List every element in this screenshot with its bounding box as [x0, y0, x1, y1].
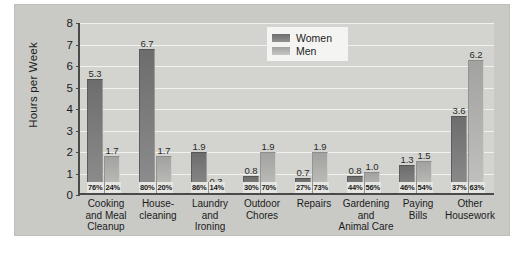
share-label: 70%: [261, 182, 278, 193]
category-label-line: Housework: [437, 210, 503, 222]
share-label: 80%: [139, 182, 157, 193]
share-label: 24%: [105, 182, 122, 193]
bar-women[interactable]: 5.3: [87, 79, 103, 193]
share-label: 56%: [365, 182, 382, 193]
bar-group: 6.71.780%20%House-cleaning: [132, 23, 184, 193]
share-label: 86%: [191, 182, 209, 193]
category-label-line: Other: [437, 198, 503, 210]
category-label: OtherHousework: [437, 198, 503, 221]
share-label: 44%: [347, 182, 365, 193]
legend: Women Men: [267, 27, 348, 61]
bar-men[interactable]: 6.2: [468, 60, 484, 193]
share-label: 30%: [243, 182, 261, 193]
category-label-line: Cleanup: [73, 221, 139, 233]
legend-item: Men: [272, 44, 332, 57]
y-axis-tick-label: 5: [67, 82, 73, 94]
y-axis-tick-label: 7: [67, 39, 73, 51]
legend-item: Women: [272, 31, 332, 44]
bar-value-label: 1.5: [417, 150, 430, 161]
share-label: 14%: [209, 182, 226, 193]
share-label-row: 46%54%: [399, 182, 433, 193]
chart-card: Hours per Week 012345678 5.31.776%24%Coo…: [14, 4, 510, 236]
bar-value-label: 0.8: [348, 165, 361, 176]
share-label: 20%: [157, 182, 174, 193]
bar-value-label: 1.9: [313, 141, 326, 152]
bar-group: 1.90.386%14%LaundryandIroning: [184, 23, 236, 193]
legend-swatch-men: [272, 47, 290, 55]
share-label-row: 76%24%: [87, 182, 121, 193]
share-label: 37%: [451, 182, 469, 193]
bar-value-label: 3.6: [452, 105, 465, 116]
bar-value-label: 1.0: [365, 161, 378, 172]
bar-value-label: 1.3: [400, 154, 413, 165]
share-label: 46%: [399, 182, 417, 193]
share-label: 73%: [313, 182, 330, 193]
y-axis-tick-label: 2: [67, 146, 73, 158]
share-label: 27%: [295, 182, 313, 193]
y-axis-tick-label: 3: [67, 125, 73, 137]
legend-label-men: Men: [296, 45, 316, 57]
bar-value-label: 0.7: [296, 167, 309, 178]
share-label-row: 44%56%: [347, 182, 381, 193]
share-label-row: 37%63%: [451, 182, 485, 193]
legend-label-women: Women: [296, 32, 332, 44]
bar-group: 1.31.546%54%PayingBills: [392, 23, 444, 193]
y-axis-tick-label: 6: [67, 60, 73, 72]
bar-value-label: 6.7: [140, 38, 153, 49]
category-label-line: Chores: [229, 210, 295, 222]
bar-value-label: 1.7: [157, 145, 170, 156]
share-label-row: 86%14%: [191, 182, 225, 193]
share-label-row: 80%20%: [139, 182, 173, 193]
y-axis-tick-label: 1: [67, 168, 73, 180]
category-label-line: Animal Care: [333, 221, 399, 233]
share-label-row: 27%73%: [295, 182, 329, 193]
bar-value-label: 1.7: [105, 145, 118, 156]
share-label: 76%: [87, 182, 105, 193]
bar-women[interactable]: 6.7: [139, 49, 155, 193]
bar-value-label: 0.8: [244, 165, 257, 176]
share-label: 63%: [469, 182, 486, 193]
y-axis-title: Hours per Week: [27, 15, 39, 155]
bar-group: 5.31.776%24%Cookingand MealCleanup: [80, 23, 132, 193]
share-label-row: 30%70%: [243, 182, 277, 193]
category-label-line: Ironing: [177, 221, 243, 233]
bar-value-label: 1.9: [261, 141, 274, 152]
bar-value-label: 6.2: [469, 49, 482, 60]
bar-group: 3.66.237%63%OtherHousework: [444, 23, 496, 193]
legend-swatch-women: [272, 34, 290, 42]
share-label: 54%: [417, 182, 434, 193]
y-axis-tick-label: 8: [67, 17, 73, 29]
y-axis-tick-mark: [76, 195, 80, 196]
bar-value-label: 5.3: [88, 68, 101, 79]
bar-value-label: 1.9: [192, 141, 205, 152]
y-axis-tick-label: 4: [67, 103, 73, 115]
